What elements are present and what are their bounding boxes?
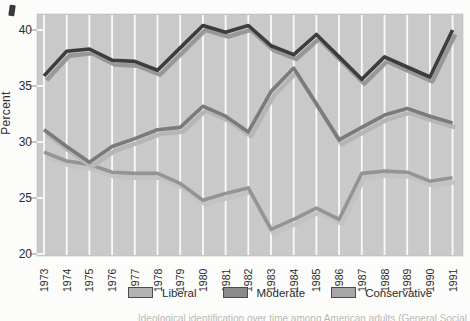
legend-item: Conservative [331, 287, 432, 299]
legend-label: Moderate [257, 287, 306, 299]
year-label: 1975 [83, 260, 96, 292]
legend-label: Conservative [365, 287, 432, 299]
legend-item: Moderate [223, 287, 306, 299]
chart-legend: LiberalModerateConservative [128, 284, 468, 301]
y-tick-label: 35 [8, 79, 32, 93]
y-axis-title: Percent [0, 58, 13, 168]
chart-page: Percent 4035302520 197319741975197619771… [0, 0, 470, 321]
year-label: 1973 [38, 260, 51, 292]
y-tick-label: 25 [8, 191, 32, 205]
legend-item: Liberal [128, 287, 197, 299]
y-tick-label: 20 [8, 247, 32, 261]
legend-swatch [128, 287, 153, 298]
year-label: 1974 [61, 260, 74, 292]
caption-fragment-clipped: Ideological identification over time amo… [138, 313, 468, 321]
year-label: 1976 [106, 260, 119, 292]
legend-swatch [223, 287, 248, 298]
y-tick-label: 30 [8, 135, 32, 149]
legend-label: Liberal [162, 287, 197, 299]
legend-swatch [331, 287, 356, 298]
y-tick-label: 40 [8, 23, 32, 37]
